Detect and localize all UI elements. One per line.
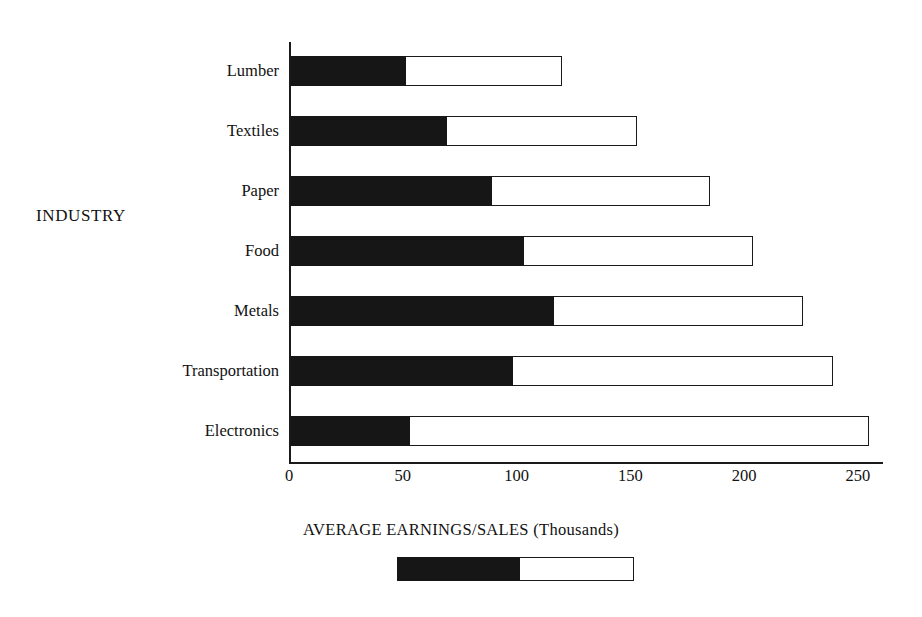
x-tick-label: 200	[732, 466, 757, 486]
bar-row: Metals	[291, 296, 885, 326]
stacked-bar	[291, 296, 803, 326]
bar-row: Transportation	[291, 356, 885, 386]
x-tick-label: 150	[618, 466, 643, 486]
bar-row: Food	[291, 236, 885, 266]
bar-segment-earnings	[291, 356, 513, 386]
category-label: Metals	[234, 296, 291, 326]
x-axis-line	[289, 462, 883, 464]
bar-row: Lumber	[291, 56, 885, 86]
stacked-bar	[291, 416, 869, 446]
x-tick-label: 0	[285, 466, 293, 486]
x-axis-caption: AVERAGE EARNINGS/SALES (Thousands)	[0, 520, 922, 540]
x-tick-label: 100	[504, 466, 529, 486]
stacked-bar	[291, 116, 637, 146]
bar-segment-earnings	[291, 116, 447, 146]
y-axis-title: INDUSTRY	[36, 206, 126, 226]
stacked-bar	[291, 56, 562, 86]
bar-row: Paper	[291, 176, 885, 206]
bar-segment-earnings	[291, 296, 554, 326]
stacked-bar	[291, 176, 710, 206]
bar-segment-earnings	[291, 56, 406, 86]
x-tick-label: 250	[846, 466, 871, 486]
bar-segment-earnings	[291, 416, 411, 446]
stacked-bar	[291, 236, 753, 266]
bar-segment-earnings	[291, 236, 525, 266]
category-label: Paper	[241, 176, 291, 206]
legend-swatch	[397, 557, 634, 581]
category-label: Textiles	[227, 116, 291, 146]
x-tick-label: 50	[395, 466, 412, 486]
category-label: Electronics	[205, 416, 291, 446]
bar-row: Electronics	[291, 416, 885, 446]
plot-area: LumberTextilesPaperFoodMetalsTransportat…	[289, 42, 883, 462]
stacked-bar	[291, 356, 833, 386]
category-label: Food	[245, 236, 291, 266]
category-label: Transportation	[182, 356, 291, 386]
category-label: Lumber	[227, 56, 291, 86]
bar-row: Textiles	[291, 116, 885, 146]
bar-chart: INDUSTRY LumberTextilesPaperFoodMetalsTr…	[0, 0, 922, 617]
bar-segment-earnings	[291, 176, 493, 206]
legend-swatch-dark-segment	[397, 557, 520, 581]
